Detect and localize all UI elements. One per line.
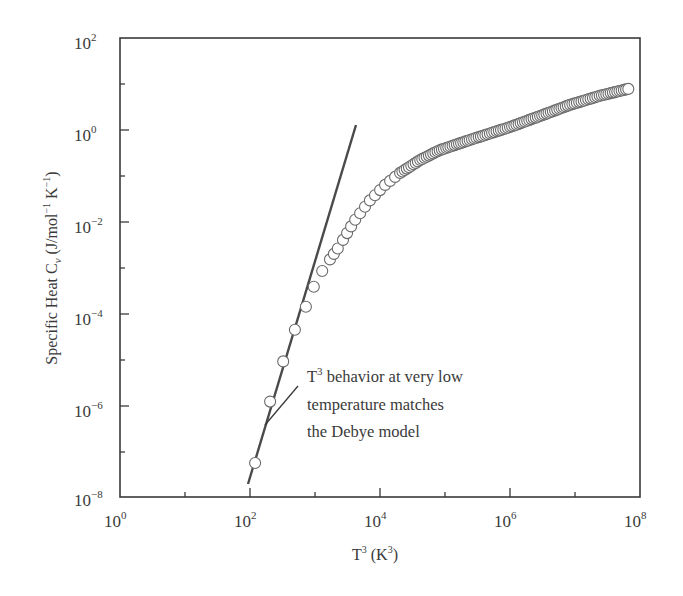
y-axis-title: Specific Heat Cv (J/mol−1 K−1) [41,171,63,364]
y-tick-label: 10−2 [74,215,103,237]
annotation: T3 behavior at very low temperature matc… [307,365,463,441]
specific-heat-chart: 102 100 10−2 10−4 10−6 10−8 100 102 104 … [0,0,683,596]
y-tick-label: 10−6 [74,399,103,421]
y-axis-ticks [120,84,129,452]
data-point-marker [300,301,311,312]
x-tick-label: 106 [494,509,517,531]
data-point-marker [265,396,276,407]
x-axis-title: T3 (K3) [352,544,398,564]
data-point-marker [317,266,328,277]
data-point-marker [250,458,261,469]
x-tick-label: 108 [624,509,647,531]
y-tick-label: 10−4 [74,307,103,329]
x-tick-label: 104 [364,509,387,531]
annotation-line-3: the Debye model [307,422,420,441]
data-point-marker [623,83,634,94]
data-point-marker [289,324,300,335]
y-tick-label: 10−8 [74,488,103,510]
annotation-line-1: T3 behavior at very low [307,365,463,386]
y-tick-label: 100 [74,123,97,145]
annotation-line-2: temperature matches [307,395,444,414]
data-point-marker [278,356,289,367]
x-tick-label: 100 [104,509,127,531]
y-axis-tick-labels: 102 100 10−2 10−4 10−6 10−8 [74,31,103,510]
y-tick-label: 102 [74,31,97,53]
data-point-marker [308,281,319,292]
x-axis-tick-labels: 100 102 104 106 108 [104,509,647,531]
x-tick-label: 102 [234,509,257,531]
x-axis-ticks [185,488,575,497]
